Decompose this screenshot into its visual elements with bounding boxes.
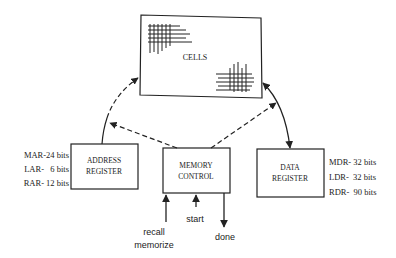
cell-grid-top-left xyxy=(148,24,192,54)
memory-control-label-line1: MEMORY xyxy=(179,161,213,170)
lar-field: LAR- 6 bits xyxy=(24,164,69,174)
memorize-label: memorize xyxy=(134,240,174,250)
cells-label: CELLS xyxy=(183,53,207,62)
memory-control-box xyxy=(163,148,230,193)
data-register-box xyxy=(257,149,324,197)
cells-data-bidirectional-arrow xyxy=(263,83,290,148)
address-to-cells-arrow xyxy=(107,78,138,118)
recall-label: recall xyxy=(143,227,165,237)
memory-control-label-line2: CONTROL xyxy=(178,172,214,181)
address-register-block: ADDRESS REGISTER MAR-24 bits LAR- 6 bits… xyxy=(24,144,138,189)
control-to-data-arrow xyxy=(211,103,276,148)
start-label: start xyxy=(186,214,204,224)
mdr-field: MDR- 32 bits xyxy=(329,157,376,167)
done-label: done xyxy=(215,232,235,242)
rar-field: RAR- 12 bits xyxy=(24,178,69,188)
address-to-cells-line xyxy=(102,118,107,144)
data-register-block: DATA REGISTER MDR- 32 bits LDR- 32 bits … xyxy=(257,149,376,197)
address-register-label-line2: REGISTER xyxy=(86,167,122,176)
address-register-label-line1: ADDRESS xyxy=(87,156,121,165)
data-register-label-line2: REGISTER xyxy=(272,174,308,183)
ldr-field: LDR- 32 bits xyxy=(329,172,376,182)
memory-control-block: MEMORY CONTROL xyxy=(163,148,230,193)
data-register-label-line1: DATA xyxy=(280,163,300,172)
cell-grid-bottom-right xyxy=(216,62,254,92)
cells-block: CELLS xyxy=(140,15,262,98)
mar-field: MAR-24 bits xyxy=(24,150,69,160)
memory-architecture-diagram: CELLS ADDRESS REGISTER MAR-24 bits LAR- … xyxy=(0,0,396,258)
rdr-field: RDR- 90 bits xyxy=(329,187,376,197)
